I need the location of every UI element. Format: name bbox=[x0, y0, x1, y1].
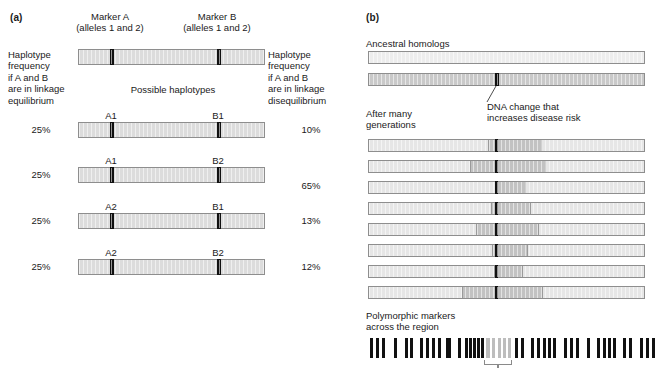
haplotype-0-freq-disequilibrium: 10% bbox=[288, 124, 334, 135]
haplotype-3-freq-equilibrium: 25% bbox=[18, 261, 64, 272]
marker-tick-32 bbox=[587, 338, 590, 358]
haplotype-bar-3 bbox=[78, 259, 265, 275]
marker-tick-12 bbox=[465, 338, 468, 358]
haplotype-0-freq-equilibrium: 25% bbox=[18, 124, 64, 135]
reference-chromosome-bar bbox=[78, 49, 265, 65]
haplotype-2-tick-b bbox=[217, 213, 221, 229]
marker-tick-18 bbox=[492, 338, 495, 358]
generation-5-mutation-tick bbox=[495, 244, 498, 257]
haplotype-1-freq-disequilibrium: 65% bbox=[288, 180, 334, 191]
marker-tick-3 bbox=[394, 338, 397, 358]
marker-tick-34 bbox=[603, 338, 606, 358]
marker-tick-20 bbox=[503, 338, 506, 358]
marker-tick-13 bbox=[469, 338, 472, 358]
generation-1-mutation-tick bbox=[495, 160, 498, 173]
panel-a-label: (a) bbox=[10, 12, 23, 23]
marker-tick-38 bbox=[629, 338, 632, 358]
generation-5-segment bbox=[492, 245, 528, 256]
marker-tick-22 bbox=[515, 338, 518, 358]
generation-4-mutation-tick bbox=[495, 223, 498, 236]
marker-b-title: Marker B bbox=[167, 11, 267, 22]
generation-0-mutation-tick bbox=[495, 139, 498, 152]
marker-region-bracket-stem bbox=[497, 364, 498, 368]
haplotype-0-tick-a bbox=[110, 122, 114, 138]
generation-7-segment bbox=[462, 287, 544, 298]
marker-tick-21 bbox=[508, 338, 511, 358]
marker-tick-6 bbox=[420, 338, 423, 358]
marker-tick-36 bbox=[613, 338, 616, 358]
generation-4-segment bbox=[476, 224, 540, 235]
haplotype-0-allele-a: A1 bbox=[93, 110, 129, 121]
dna-change-caption: DNA change that increases disease risk bbox=[487, 101, 647, 124]
marker-tick-2 bbox=[382, 338, 385, 358]
ancestral-homolog-bar-0 bbox=[368, 51, 645, 64]
marker-tick-24 bbox=[531, 338, 534, 358]
haplotype-1-tick-b bbox=[217, 167, 221, 183]
marker-tick-11 bbox=[458, 338, 461, 358]
marker-tick-25 bbox=[537, 338, 540, 358]
marker-tick-23 bbox=[521, 338, 524, 358]
generation-7-mutation-tick bbox=[495, 286, 498, 299]
generation-bar-0 bbox=[368, 139, 645, 152]
marker-tick-17 bbox=[486, 338, 490, 358]
marker-tick-40 bbox=[646, 338, 649, 358]
generation-6-segment bbox=[494, 266, 523, 277]
generation-bar-6 bbox=[368, 265, 645, 278]
marker-a-subtitle: (alleles 1 and 2) bbox=[55, 22, 165, 33]
marker-tick-29 bbox=[564, 338, 567, 358]
marker-tick-4 bbox=[405, 338, 408, 358]
marker-tick-26 bbox=[543, 338, 546, 358]
dna-change-tick bbox=[495, 73, 499, 86]
generation-6-mutation-tick bbox=[495, 265, 498, 278]
haplotype-0-tick-b bbox=[217, 122, 221, 138]
haplotype-2-freq-disequilibrium: 13% bbox=[288, 215, 334, 226]
haplotype-1-allele-b: B2 bbox=[200, 155, 236, 166]
ancestral-homologs-caption: Ancestral homologs bbox=[366, 38, 546, 49]
haplotype-2-tick-a bbox=[110, 213, 114, 229]
marker-tick-8 bbox=[432, 338, 435, 358]
generation-bar-3 bbox=[368, 202, 645, 215]
marker-tick-15 bbox=[477, 338, 480, 358]
marker-tick-35 bbox=[608, 338, 611, 358]
haplotype-bar-0 bbox=[78, 122, 265, 138]
panel-b-label: (b) bbox=[366, 12, 379, 23]
possible-haplotypes-caption: Possible haplotypes bbox=[108, 84, 238, 95]
haplotype-3-tick-a bbox=[110, 259, 114, 275]
generation-bar-2 bbox=[368, 181, 645, 194]
generation-bar-4 bbox=[368, 223, 645, 236]
haplotype-3-tick-b bbox=[217, 259, 221, 275]
polymorphic-markers-strip bbox=[368, 338, 658, 358]
marker-tick-1 bbox=[376, 338, 379, 358]
haplotype-0-allele-b: B1 bbox=[200, 110, 236, 121]
marker-b-subtitle: (alleles 1 and 2) bbox=[162, 22, 272, 33]
marker-tick-19 bbox=[498, 338, 501, 358]
marker-tick-41 bbox=[652, 338, 655, 358]
marker-tick-5 bbox=[410, 338, 413, 358]
polymorphic-markers-caption: Polymorphic markers across the region bbox=[366, 310, 546, 333]
haplotype-3-freq-disequilibrium: 12% bbox=[288, 261, 334, 272]
haplotype-bar-1 bbox=[78, 167, 265, 183]
marker-b-tick bbox=[217, 49, 221, 65]
marker-tick-27 bbox=[548, 338, 551, 358]
generation-2-segment bbox=[495, 182, 525, 193]
generation-bar-5 bbox=[368, 244, 645, 257]
ancestral-homolog-bar-1 bbox=[368, 73, 645, 86]
haplotype-2-allele-b: B1 bbox=[200, 201, 236, 212]
marker-tick-14 bbox=[473, 338, 476, 358]
marker-a-tick bbox=[110, 49, 114, 65]
generation-bar-7 bbox=[368, 286, 645, 299]
marker-tick-39 bbox=[640, 338, 643, 358]
haplotype-2-freq-equilibrium: 25% bbox=[18, 215, 64, 226]
generation-1-segment bbox=[470, 161, 546, 172]
generation-3-mutation-tick bbox=[495, 202, 498, 215]
marker-a-title: Marker A bbox=[60, 11, 160, 22]
marker-tick-16 bbox=[481, 338, 484, 358]
haplotype-1-tick-a bbox=[110, 167, 114, 183]
haplotype-1-allele-a: A1 bbox=[93, 155, 129, 166]
generation-2-mutation-tick bbox=[495, 181, 498, 194]
haplotype-1-freq-equilibrium: 25% bbox=[18, 169, 64, 180]
left-frequency-caption: Haplotype frequency if A and B are in li… bbox=[8, 49, 78, 106]
marker-tick-7 bbox=[426, 338, 429, 358]
after-generations-caption: After many generations bbox=[366, 108, 476, 131]
marker-tick-10 bbox=[446, 338, 451, 358]
